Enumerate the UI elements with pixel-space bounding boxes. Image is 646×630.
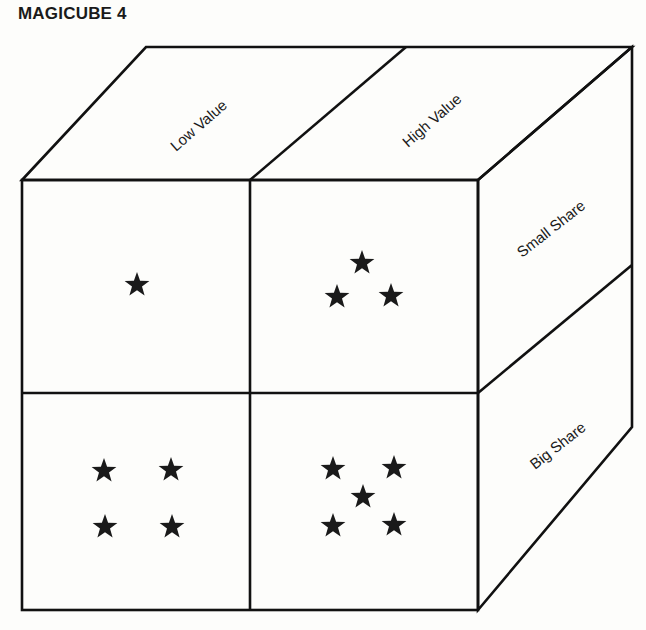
top-divider — [250, 47, 406, 180]
right-face — [478, 47, 632, 610]
star-icon — [325, 284, 350, 308]
star-icon — [351, 484, 376, 508]
cell-small-low — [125, 272, 150, 296]
star-icon — [93, 514, 118, 538]
star-icon — [350, 250, 375, 274]
cell-big-low — [92, 457, 185, 538]
side-label-big-share: Big Share — [526, 418, 588, 472]
star-icon — [92, 458, 117, 482]
side-label-small-share: Small Share — [513, 197, 588, 261]
star-icon — [125, 272, 150, 296]
right-divider — [478, 265, 632, 393]
cell-big-high — [321, 455, 407, 537]
star-icon — [382, 512, 407, 536]
star-icon — [321, 456, 346, 480]
top-label-high-value: High Value — [399, 90, 465, 150]
star-icon — [382, 455, 407, 479]
top-face — [22, 47, 632, 180]
top-label-low-value: Low Value — [167, 96, 230, 154]
star-icon — [379, 283, 404, 307]
front-face — [22, 180, 478, 610]
cell-small-high — [325, 250, 404, 308]
star-icon — [321, 513, 346, 537]
star-icon — [159, 457, 184, 481]
magicube-diagram: Low Value High Value Small Share Big Sha… — [0, 0, 646, 630]
star-icon — [160, 514, 185, 538]
